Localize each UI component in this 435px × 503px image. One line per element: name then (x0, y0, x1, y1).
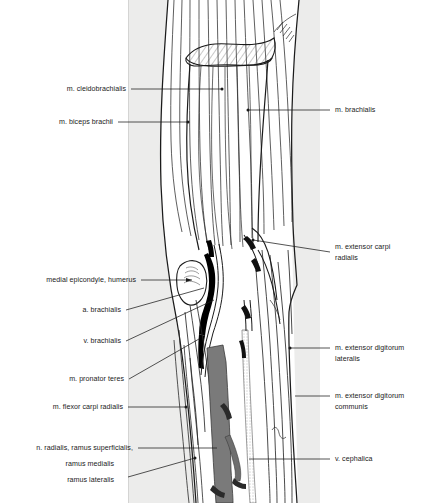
label-medial-epicondyle-humerus: medial epicondyle, humerus (0, 275, 136, 285)
label-m-extensor-digitorum-lateralis-2: lateralis (335, 354, 360, 364)
medial-epicondyle (177, 261, 207, 305)
label-n-radialis-ramus-superficialis: n. radialis, ramus superficialis, (0, 443, 133, 453)
label-m-biceps-brachii: m. biceps brachii (0, 117, 113, 127)
label-ramus-lateralis: ramus lateralis (0, 475, 114, 485)
anatomy-figure-page: m. cleidobrachialis m. biceps brachii me… (0, 0, 435, 503)
label-m-cleidobrachialis: m. cleidobrachialis (0, 84, 126, 94)
label-m-pronator-teres: m. pronator teres (0, 374, 124, 384)
label-v-brachialis: v. brachialis (0, 336, 121, 346)
label-a-brachialis: a. brachialis (0, 305, 121, 315)
label-m-brachialis: m. brachialis (335, 105, 375, 115)
label-m-extensor-digitorum-communis-2: communis (335, 402, 368, 412)
label-v-cephalica: v. cephalica (335, 454, 373, 464)
label-m-extensor-digitorum-communis-1: m. extensor digitorum (335, 391, 404, 401)
label-m-extensor-carpi-radialis-2: radialis (335, 253, 358, 263)
label-m-extensor-digitorum-lateralis-1: m. extensor digitorum (335, 343, 404, 353)
label-m-flexor-carpi-radialis: m. flexor carpi radialis (0, 402, 123, 412)
label-m-extensor-carpi-radialis-1: m. extensor carpi (335, 242, 390, 252)
label-ramus-medialis: ramus medialis (0, 459, 114, 469)
